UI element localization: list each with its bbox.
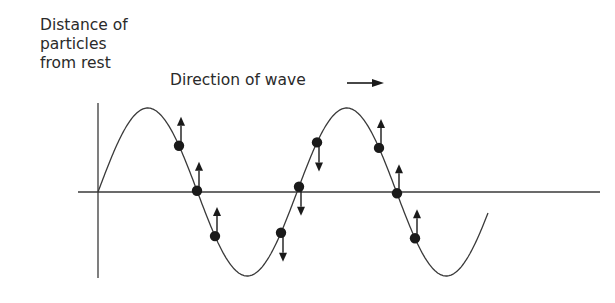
particle-dot [294, 182, 304, 192]
particle-dot [276, 228, 286, 238]
particle-3 [210, 207, 221, 241]
particles-group [174, 117, 421, 262]
particle-4 [276, 228, 287, 262]
particle-dot [174, 141, 184, 151]
particle-dot [312, 137, 322, 147]
particle-dot [392, 188, 402, 198]
arrow-up-icon [377, 119, 385, 128]
direction-arrow-icon [347, 79, 384, 87]
particle-8 [392, 164, 403, 198]
particle-2 [192, 162, 203, 196]
particle-6 [312, 137, 323, 171]
particle-dot [210, 231, 220, 241]
wave-diagram [0, 0, 615, 303]
particle-dot [374, 143, 384, 153]
particle-dot [410, 233, 420, 243]
arrow-down-icon [315, 162, 323, 171]
arrow-up-icon [213, 207, 221, 216]
particle-5 [294, 182, 305, 216]
arrow-down-icon [279, 253, 287, 262]
arrow-up-icon [413, 209, 421, 218]
arrow-down-icon [297, 207, 305, 216]
arrow-up-icon [195, 162, 203, 171]
particle-7 [374, 119, 385, 153]
particle-1 [174, 117, 185, 151]
arrow-up-icon [177, 117, 185, 126]
arrow-up-icon [395, 164, 403, 173]
particle-dot [192, 186, 202, 196]
particle-9 [410, 209, 421, 243]
